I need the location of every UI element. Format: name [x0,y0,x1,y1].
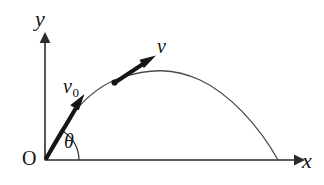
instantaneous-velocity-vector [115,56,156,83]
origin-label: O [22,148,36,168]
instantaneous-velocity-label: v [157,36,166,56]
x-axis [45,155,305,166]
y-axis-label: y [35,8,45,30]
figure-canvas [0,0,324,185]
initial-velocity-label: v0 [63,76,79,99]
launch-angle-label: θ [64,131,74,151]
x-axis-label: x [302,150,312,172]
projectile-motion-figure: y x O θ v0 v [0,0,324,185]
y-axis-arrowhead [40,32,51,43]
y-axis [40,32,51,160]
trajectory-curve [45,71,278,160]
initial-velocity-subscript: 0 [72,85,79,100]
initial-velocity-symbol: v [63,75,72,97]
